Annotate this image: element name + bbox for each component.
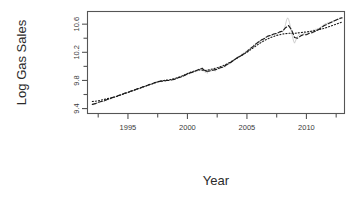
y-tick-label: 10.6 (72, 17, 81, 32)
y-tick-label: 9.8 (72, 75, 81, 85)
figure-container: 9.49.810.210.61995200020052010YearLog Ga… (0, 0, 363, 198)
x-tick-label: 2005 (239, 123, 256, 132)
y-tick-label: 9.4 (72, 103, 81, 113)
series-fitted-dashed (92, 18, 342, 105)
y-tick-label: 10.2 (72, 45, 81, 60)
y-axis-title: Log Gas Sales (14, 19, 29, 105)
x-tick-label: 2010 (298, 123, 315, 132)
x-axis-title: Year (203, 173, 230, 188)
gas-sales-chart: 9.49.810.210.61995200020052010YearLog Ga… (0, 0, 363, 198)
plot-box (88, 12, 345, 114)
x-tick-label: 2000 (179, 123, 196, 132)
x-tick-label: 1995 (120, 123, 137, 132)
